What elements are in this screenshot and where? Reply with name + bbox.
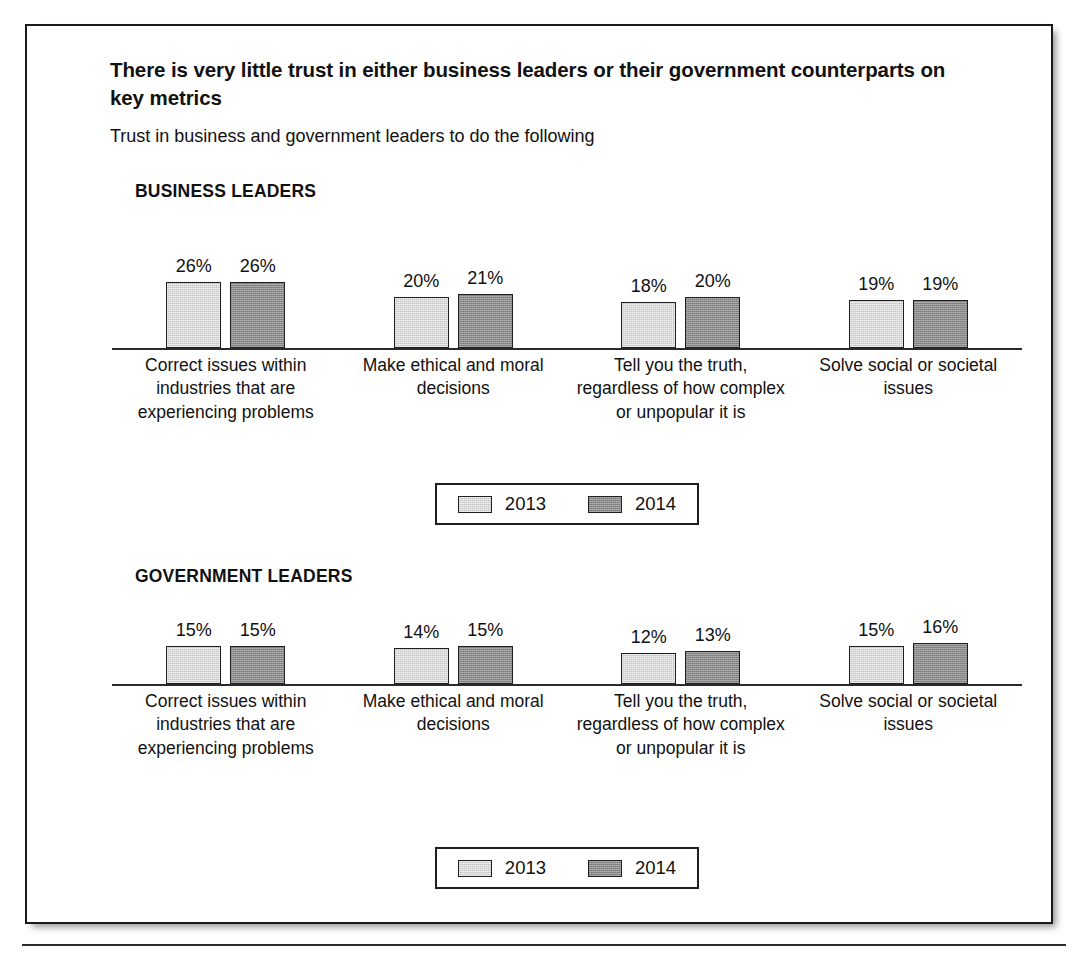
bar-column: 21%: [458, 269, 513, 348]
bar-column: 15%: [230, 621, 285, 684]
bar-column: 15%: [166, 621, 221, 684]
bar-2014: [913, 643, 968, 684]
legend-business: 20132014: [435, 483, 699, 525]
bar-value-label: 26%: [240, 257, 276, 275]
bar-column: 16%: [913, 618, 968, 684]
legend-entry: 2014: [588, 859, 676, 878]
page-title: There is very little trust in either bus…: [110, 56, 980, 111]
legend-entry: 2013: [458, 859, 546, 878]
legend-label: 2013: [505, 859, 546, 878]
bar-group: 15%16%: [795, 566, 1023, 684]
bar-column: 13%: [685, 626, 740, 684]
legend-label: 2014: [635, 495, 676, 514]
bar-2014: [230, 282, 285, 348]
bar-chart-government-leaders: 15%15%14%15%12%13%15%16% Correct issues …: [112, 566, 1022, 756]
bar-value-label: 12%: [631, 628, 667, 646]
bar-column: 19%: [849, 275, 904, 348]
bar-value-label: 15%: [467, 621, 503, 639]
bar-column: 14%: [394, 623, 449, 684]
bar-group: 19%19%: [795, 181, 1023, 348]
bar-column: 18%: [621, 277, 676, 348]
bar-2013: [166, 282, 221, 348]
bar-2013: [166, 646, 221, 684]
light-gray-swatch: [458, 860, 492, 877]
bar-2013: [849, 646, 904, 684]
bar-value-label: 26%: [176, 257, 212, 275]
bar-2013: [621, 653, 676, 684]
bar-2013: [394, 648, 449, 684]
bar-column: 15%: [458, 621, 513, 684]
bar-value-label: 13%: [695, 626, 731, 644]
bar-2014: [230, 646, 285, 684]
dark-gray-swatch: [588, 496, 622, 513]
bar-value-label: 15%: [240, 621, 276, 639]
light-gray-swatch: [458, 496, 492, 513]
bar-value-label: 19%: [922, 275, 958, 293]
bar-group: 15%15%: [112, 566, 340, 684]
bar-column: 19%: [913, 275, 968, 348]
bar-group: 18%20%: [567, 181, 795, 348]
bar-column: 26%: [230, 257, 285, 348]
bar-value-label: 15%: [858, 621, 894, 639]
legend-entry: 2014: [588, 495, 676, 514]
bar-value-label: 14%: [403, 623, 439, 641]
legend-government: 20132014: [435, 847, 699, 889]
legend-entry: 2013: [458, 495, 546, 514]
bar-2014: [685, 651, 740, 684]
bottom-divider: [22, 944, 1066, 946]
x-axis-line-business: [112, 348, 1022, 350]
dark-gray-swatch: [588, 860, 622, 877]
bar-column: 26%: [166, 257, 221, 348]
bar-column: 20%: [685, 272, 740, 348]
chart-panel: There is very little trust in either bus…: [25, 24, 1053, 924]
bar-2014: [685, 297, 740, 348]
bar-2013: [849, 300, 904, 348]
category-label: Solve social or societal issues: [795, 690, 1023, 760]
bar-2013: [621, 302, 676, 348]
bar-value-label: 18%: [631, 277, 667, 295]
category-label: Make ethical and moral decisions: [340, 690, 568, 760]
category-label: Correct issues within industries that ar…: [112, 354, 340, 424]
bar-value-label: 19%: [858, 275, 894, 293]
bar-chart-business-leaders: 26%26%20%21%18%20%19%19% Correct issues …: [112, 181, 1022, 371]
bar-column: 12%: [621, 628, 676, 684]
bar-2014: [913, 300, 968, 348]
bar-value-label: 15%: [176, 621, 212, 639]
bar-group: 14%15%: [340, 566, 568, 684]
x-axis-line-government: [112, 684, 1022, 686]
category-label: Make ethical and moral decisions: [340, 354, 568, 424]
chart-subtitle: Trust in business and government leaders…: [110, 125, 980, 148]
bar-value-label: 21%: [467, 269, 503, 287]
bar-group: 26%26%: [112, 181, 340, 348]
bar-value-label: 16%: [922, 618, 958, 636]
bar-column: 15%: [849, 621, 904, 684]
bar-group: 12%13%: [567, 566, 795, 684]
bar-column: 20%: [394, 272, 449, 348]
bar-value-label: 20%: [695, 272, 731, 290]
legend-label: 2013: [505, 495, 546, 514]
bar-group: 20%21%: [340, 181, 568, 348]
bar-2014: [458, 294, 513, 348]
category-label: Solve social or societal issues: [795, 354, 1023, 424]
chart-header: There is very little trust in either bus…: [110, 56, 980, 149]
legend-label: 2014: [635, 859, 676, 878]
bar-2013: [394, 297, 449, 348]
bar-value-label: 20%: [403, 272, 439, 290]
category-label: Tell you the truth, regardless of how co…: [567, 354, 795, 424]
category-label: Correct issues within industries that ar…: [112, 690, 340, 760]
category-label: Tell you the truth, regardless of how co…: [567, 690, 795, 760]
bar-2014: [458, 646, 513, 684]
